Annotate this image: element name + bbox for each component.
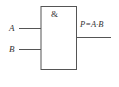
and-gate-diagram: & A B P=A·B xyxy=(0,0,119,87)
input-a-label: A xyxy=(8,23,15,33)
gate-box xyxy=(41,7,77,70)
gate-symbol: & xyxy=(51,9,58,19)
input-b-label: B xyxy=(9,44,15,54)
output-label: P=A·B xyxy=(79,19,103,29)
